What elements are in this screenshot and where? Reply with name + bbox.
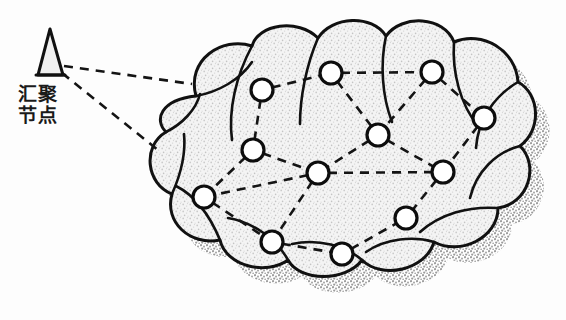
network-cloud xyxy=(150,20,535,276)
sink-label-line-2: 节点 xyxy=(18,105,88,126)
sensor-node xyxy=(367,124,389,146)
sensor-node xyxy=(193,186,215,208)
sensor-node xyxy=(251,79,273,101)
sink-link xyxy=(64,66,192,84)
sensor-node xyxy=(473,107,495,129)
sensor-node xyxy=(307,162,329,184)
sensor-node xyxy=(432,161,454,183)
sink-label-line-1: 汇聚 xyxy=(18,84,88,105)
sensor-node xyxy=(331,243,353,265)
sensor-node xyxy=(395,207,417,229)
sensor-node xyxy=(320,62,342,84)
sensor-node xyxy=(421,61,443,83)
sensor-node xyxy=(242,139,264,161)
figure-root: 汇聚 节点 xyxy=(0,0,566,320)
antenna-triangle-icon xyxy=(36,29,65,75)
network-diagram-svg xyxy=(0,0,566,320)
sensor-node xyxy=(261,231,283,253)
sink-node-label: 汇聚 节点 xyxy=(18,84,88,125)
